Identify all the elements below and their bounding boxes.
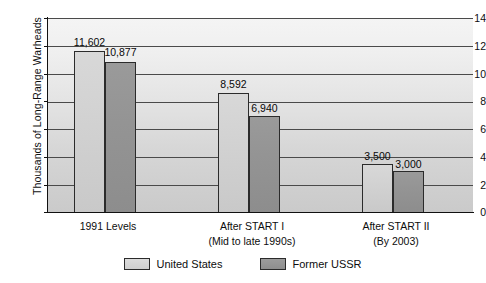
y-axis-title: Thousands of Long-Range Warheads xyxy=(31,0,43,216)
bar-value-ussr-start2: 3,000 xyxy=(381,158,436,170)
plot-area: 11,602 10,877 8,592 6,940 3,500 3,000 xyxy=(48,18,473,213)
x-category-after-start-2-label: After START II xyxy=(362,220,429,232)
x-axis-spine xyxy=(48,212,474,213)
legend-swatch-united-states xyxy=(124,258,150,270)
bar-value-ussr-start1: 6,940 xyxy=(237,102,292,114)
x-category-after-start-2-sub: (By 2003) xyxy=(315,234,477,249)
bar-us-1991[interactable] xyxy=(74,51,105,213)
x-category-after-start-1: After START I (Mid to late 1990s) xyxy=(171,219,333,249)
bar-ussr-1991[interactable] xyxy=(105,62,136,214)
legend-label-former-ussr: Former USSR xyxy=(292,258,361,270)
legend-label-united-states: United States xyxy=(156,258,222,270)
bar-us-start2[interactable] xyxy=(362,164,393,213)
x-category-after-start-2: After START II (By 2003) xyxy=(315,219,477,249)
x-category-after-start-1-sub: (Mid to late 1990s) xyxy=(171,234,333,249)
bar-ussr-start1[interactable] xyxy=(249,116,280,213)
bar-ussr-start2[interactable] xyxy=(393,171,424,213)
y-axis-spine xyxy=(47,17,48,213)
chart-legend: United States Former USSR xyxy=(0,258,486,270)
bar-value-ussr-1991: 10,877 xyxy=(93,46,148,58)
x-category-after-start-1-label: After START I xyxy=(220,220,284,232)
gridline-14 xyxy=(48,18,473,19)
x-category-1991-levels: 1991 Levels xyxy=(27,219,189,234)
bar-value-us-start1: 8,592 xyxy=(206,78,261,90)
legend-swatch-former-ussr xyxy=(260,258,286,270)
bar-chart-figure: Thousands of Long-Range Warheads 14 12 1… xyxy=(0,0,486,283)
legend-item-former-ussr[interactable]: Former USSR xyxy=(260,258,361,270)
legend-item-united-states[interactable]: United States xyxy=(124,258,222,270)
x-category-1991-levels-label: 1991 Levels xyxy=(80,220,137,232)
